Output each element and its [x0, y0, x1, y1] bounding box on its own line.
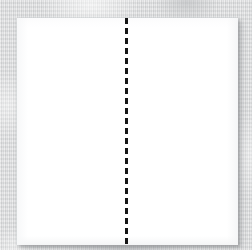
scene-root	[0, 0, 252, 250]
white-paper-sheet	[17, 18, 238, 245]
vertical-dashed-fold-line	[125, 18, 128, 245]
